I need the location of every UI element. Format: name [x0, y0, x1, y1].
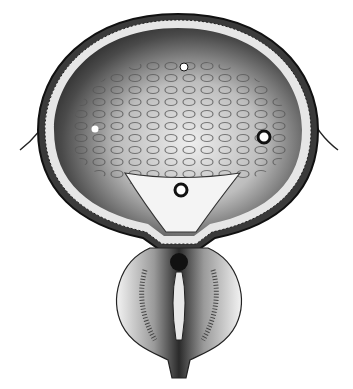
- anatomical-figure: [0, 0, 353, 389]
- internal-urethral-orifice: [170, 253, 188, 271]
- ureter-opening-left: [92, 126, 99, 133]
- trigone-dot: [175, 184, 187, 196]
- urethra: [173, 272, 185, 340]
- ureter-opening-right: [258, 131, 270, 143]
- ureter-opening-top: [180, 63, 188, 71]
- bladder-illustration: [0, 0, 353, 389]
